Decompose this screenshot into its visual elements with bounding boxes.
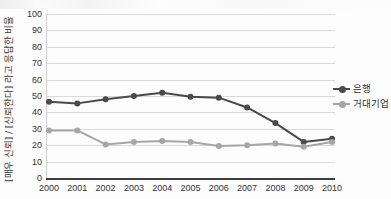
x-axis-tick-label: 2002 (96, 184, 116, 193)
x-axis-tick-label: 2003 (124, 184, 144, 193)
x-axis-tick-label: 2000 (39, 184, 59, 193)
chart-legend: 은행거대기업 (333, 82, 391, 112)
chart-container: [매우 신뢰] / [신뢰한다] 라고 응답한 비율 0102030405060… (0, 0, 391, 199)
x-axis-tick-label: 2009 (294, 184, 314, 193)
legend-item-label: 거대기업 (353, 99, 389, 109)
legend-marker-icon (333, 84, 350, 94)
x-axis-tick-label: 2004 (152, 184, 172, 193)
legend-item[interactable]: 거대기업 (333, 97, 391, 111)
legend-marker-icon (333, 99, 350, 109)
x-axis-tick-label: 2005 (180, 184, 200, 193)
x-axis-tick-label: 2006 (209, 184, 229, 193)
x-axis-tick-label: 2001 (67, 184, 87, 193)
x-axis-tick-label: 2007 (237, 184, 257, 193)
x-axis-tick-label: 2010 (322, 184, 342, 193)
legend-item[interactable]: 은행 (333, 82, 391, 96)
legend-item-label: 은행 (353, 84, 371, 94)
x-axis-tick-label: 2008 (265, 184, 285, 193)
